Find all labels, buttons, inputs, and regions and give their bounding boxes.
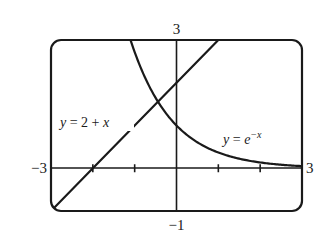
exp-equation-label: y = e−x	[221, 129, 262, 147]
chart: 3 −1 −3 3 y = 2 + x y = e−x	[0, 0, 321, 245]
ymax-label: 3	[173, 21, 181, 37]
xmax-label: 3	[306, 160, 314, 176]
line-equation-label: y = 2 + x	[58, 115, 110, 130]
ymin-label: −1	[169, 217, 185, 233]
xmin-label: −3	[31, 160, 47, 176]
